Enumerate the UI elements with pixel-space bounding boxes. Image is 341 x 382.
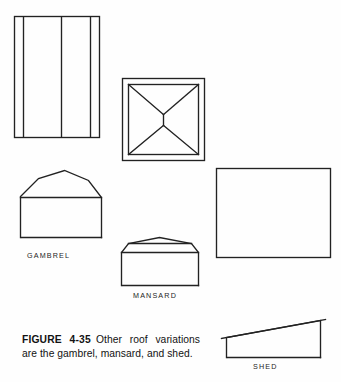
mansard-label: MANSARD xyxy=(133,291,177,300)
gambrel-roof-elevation-view xyxy=(21,171,102,238)
figure-caption: FIGURE 4-35 Other roof variations are th… xyxy=(22,333,200,362)
figure-page: GAMBREL MANSARD SHED FIGURE 4-35 Other r… xyxy=(0,0,341,382)
shed-label: SHED xyxy=(253,362,278,371)
shed-roof-plan-view xyxy=(217,169,331,258)
figure-number: FIGURE 4-35 xyxy=(22,334,91,345)
gambrel-roof-plan-view xyxy=(15,17,100,138)
roof-variations-illustration xyxy=(0,0,341,382)
mansard-roof-plan-view xyxy=(123,79,205,161)
gambrel-label: GAMBREL xyxy=(27,251,70,260)
mansard-roof-elevation-view xyxy=(122,238,199,286)
shed-roof-elevation-view xyxy=(222,320,326,358)
